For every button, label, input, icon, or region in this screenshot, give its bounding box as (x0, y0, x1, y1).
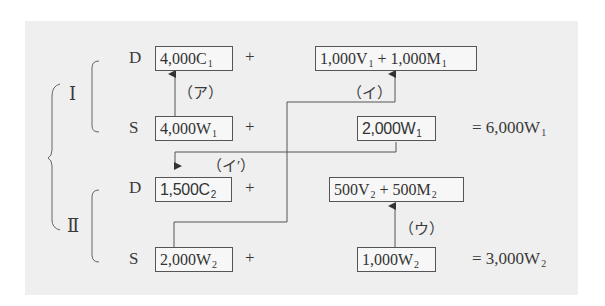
box-1000V1-1000M1: 1,000V1 + 1,000M1 (315, 46, 477, 71)
arrow-label-i-prime: （イ′） (207, 154, 255, 175)
box-value: 4,000W (160, 120, 211, 137)
arrow-label-i: （イ） (347, 81, 392, 102)
box-value: 4,000C (160, 50, 207, 67)
group-label-I: Ⅰ (69, 83, 76, 105)
box-2000W2: 2,000W2 (155, 247, 233, 272)
total-subscript: 1 (541, 127, 546, 138)
box-2000W1: 2,000W1 (357, 116, 436, 141)
row-I-S-prefix: S (129, 118, 138, 138)
bracket-I (92, 61, 99, 132)
box-value: 2,000W (362, 120, 415, 137)
box-subscript: 2 (211, 189, 216, 200)
m-subscript: 2 (432, 189, 437, 200)
plus-sign: + (245, 248, 255, 268)
group-brace (48, 84, 60, 230)
row-II-D-prefix: D (129, 178, 141, 198)
m-value: 500M (393, 181, 431, 198)
total-I: = 6,000W1 (472, 118, 546, 138)
total-subscript: 2 (541, 258, 546, 269)
plus-sign: + (376, 181, 393, 198)
bracket-II (92, 190, 99, 262)
box-subscript: 1 (208, 58, 213, 69)
total-value: = 6,000W (472, 118, 540, 137)
box-500V2-500M2: 500V2 + 500M2 (329, 177, 464, 202)
plus-sign: + (245, 117, 255, 137)
v-value: 500V (334, 181, 370, 198)
row-II-S-prefix: S (129, 249, 138, 269)
box-subscript: 1 (416, 128, 421, 139)
box-value: 1,500C (160, 181, 210, 198)
box-1500C2: 1,500C2 (155, 177, 232, 202)
box-4000C1: 4,000C1 (155, 46, 233, 71)
plus-sign: + (245, 178, 255, 198)
total-value: = 3,000W (472, 249, 540, 268)
v-value: 1,000V (320, 50, 368, 67)
box-1000W2: 1,000W2 (357, 247, 436, 272)
plus-sign: + (245, 47, 255, 67)
row-I-D-prefix: D (129, 48, 141, 68)
arrow-label-a: （ア） (178, 81, 223, 102)
m-value: 1,000M (391, 50, 441, 67)
box-4000W1: 4,000W1 (155, 116, 233, 141)
box-subscript: 2 (212, 259, 217, 270)
total-II: = 3,000W2 (472, 249, 546, 269)
group-label-II: Ⅱ (67, 215, 79, 237)
m-subscript: 1 (442, 58, 447, 69)
box-value: 2,000W (160, 251, 211, 268)
box-subscript: 2 (414, 259, 419, 270)
box-subscript: 1 (212, 128, 217, 139)
box-value: 1,000W (362, 251, 413, 268)
plus-sign: + (374, 50, 391, 67)
arrow-label-u: （ウ） (399, 217, 444, 238)
